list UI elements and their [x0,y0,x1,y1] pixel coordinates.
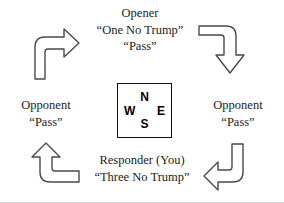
opponent-left-role: Opponent [2,97,90,114]
bidding-cycle-diagram: Opener “One No Trump” “Pass” Opponent “P… [0,0,284,203]
opponent-right-label-group: Opponent “Pass” [194,97,282,130]
compass-card: N W E S [117,83,172,138]
elbow-arrow-left-up-icon [28,143,80,193]
compass-west-label: W [124,105,135,117]
elbow-arrow-up-right-icon [33,28,81,80]
opponent-left-label-group: Opponent “Pass” [2,97,90,130]
responder-bid: “Three No Trump” [66,169,218,186]
responder-label-group: Responder (You) “Three No Trump” [66,152,218,185]
opener-second-call: “Pass” [62,38,218,55]
elbow-arrow-right-down-icon [198,24,246,76]
opener-label-group: Opener “One No Trump” “Pass” [62,5,218,55]
responder-role: Responder (You) [66,152,218,169]
opponent-right-call: “Pass” [194,114,282,131]
compass-east-label: E [157,105,165,117]
opener-bid: “One No Trump” [62,22,218,39]
opener-role: Opener [62,5,218,22]
elbow-arrow-down-left-icon [203,143,255,193]
opponent-left-call: “Pass” [2,114,90,131]
compass-south-label: S [118,118,171,130]
opponent-right-role: Opponent [194,97,282,114]
compass-north-label: N [118,91,171,103]
